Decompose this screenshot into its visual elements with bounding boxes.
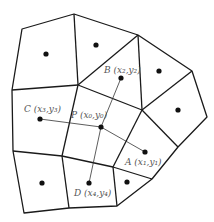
connection-lines — [40, 78, 145, 183]
label-p: P (x₀,y₀) — [71, 111, 107, 120]
label-d: D (x₄,y₄) — [74, 189, 111, 198]
label-c: C (x₃,y₃) — [24, 105, 61, 114]
site-top-middle — [93, 42, 98, 47]
site-c — [37, 116, 42, 121]
label-a: A (x₁,y₁) — [125, 158, 162, 167]
site-top-left — [43, 51, 48, 56]
voronoi-diagram: B (x₂,y₂) C (x₃,y₃) P (x₀,y₀) A (x₁,y₁) … — [0, 0, 214, 222]
site-d — [86, 180, 91, 185]
site-a — [142, 149, 147, 154]
site-p — [98, 124, 103, 129]
site-bottom-left — [39, 180, 44, 185]
site-b — [118, 75, 123, 80]
site-bottom-right — [124, 179, 129, 184]
label-b: B (x₂,y₂) — [104, 66, 141, 75]
site-right — [175, 107, 180, 112]
site-top-right — [156, 68, 161, 73]
